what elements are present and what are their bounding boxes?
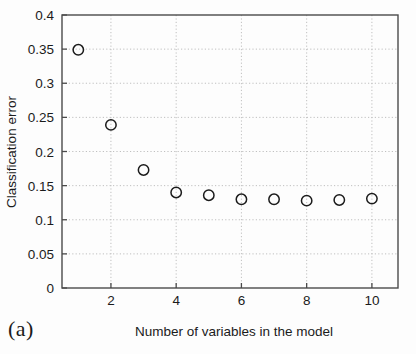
y-tick-label: 0.35 (28, 42, 54, 57)
y-tick-label: 0.4 (35, 8, 54, 23)
x-tick-label: 6 (238, 293, 246, 308)
y-tick-label: 0.1 (35, 213, 54, 228)
y-tick-label: 0 (46, 281, 54, 296)
y-axis-title: Classification error (4, 96, 19, 208)
y-tick-label: 0.15 (28, 179, 54, 194)
x-axis-title: Number of variables in the model (135, 324, 333, 339)
panel-caption: (a) (8, 316, 34, 342)
x-tick-label: 10 (364, 293, 379, 308)
x-tick-label: 8 (303, 293, 311, 308)
y-tick-label: 0.2 (35, 145, 54, 160)
figure-panel: 00.050.10.150.20.250.30.350.4 246810 Cla… (0, 0, 416, 354)
x-tick-label: 2 (107, 293, 115, 308)
x-tick-label: 4 (172, 293, 180, 308)
scatter-plot: 00.050.10.150.20.250.30.350.4 246810 Cla… (0, 0, 416, 354)
y-tick-label: 0.25 (28, 110, 54, 125)
y-tick-label: 0.05 (28, 247, 54, 262)
y-tick-label: 0.3 (35, 76, 54, 91)
x-axis-tick-labels: 246810 (107, 293, 379, 308)
y-axis-tick-labels: 00.050.10.150.20.250.30.350.4 (28, 8, 55, 296)
